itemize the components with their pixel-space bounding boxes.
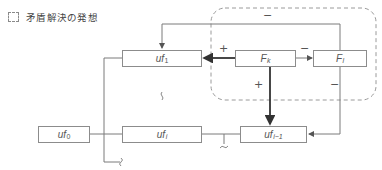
node-label: uf (157, 129, 165, 140)
node-subscript: i−1 (273, 133, 283, 140)
node-label: uf (156, 53, 164, 64)
node-label: F (260, 53, 266, 64)
ellipsis-squiggle-icon (161, 92, 163, 100)
feedback-fl-to-uf1 (162, 24, 340, 50)
sign-fk-down: + (254, 79, 263, 90)
diagram-connectors (0, 0, 382, 170)
node-uf1: uf1 (122, 50, 202, 67)
sign-fl-down: − (330, 79, 339, 90)
node-fl: Fl (313, 50, 367, 67)
node-subscript: k (267, 57, 271, 64)
node-subscript: i (166, 133, 168, 140)
node-ufi: ufi (122, 126, 202, 143)
node-uf0: uf0 (38, 126, 90, 143)
node-subscript: 1 (164, 57, 168, 64)
sign-fk-to-uf1: + (219, 43, 228, 54)
node-label: F (336, 53, 342, 64)
node-fk: Fk (235, 50, 296, 67)
sign-top-feedback: − (263, 10, 272, 21)
node-ufi-1: ufi−1 (240, 126, 307, 143)
chain-uf1-down (104, 58, 122, 162)
sign-fk-to-fl: − (300, 43, 309, 54)
break-mark-icon (220, 146, 228, 148)
node-label: uf (264, 129, 272, 140)
node-label: uf (58, 129, 66, 140)
node-subscript: l (343, 57, 345, 64)
node-subscript: 0 (66, 133, 70, 140)
